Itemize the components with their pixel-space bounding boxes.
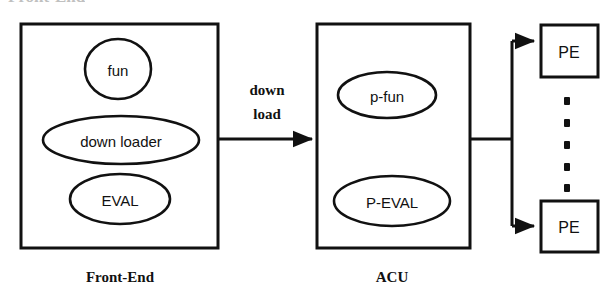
download-edge[interactable]: down load xyxy=(218,82,312,139)
block-diagram-svg: fun down loader EVAL Front-End down load xyxy=(0,0,615,307)
eval-label: EVAL xyxy=(101,192,138,209)
acu-caption: ACU xyxy=(376,269,409,285)
node-p-eval[interactable]: P-EVAL xyxy=(334,176,450,226)
node-pe-bottom[interactable]: PE xyxy=(541,201,598,252)
diagram-canvas: Front-End fun down loader EVAL xyxy=(0,0,615,307)
node-down-loader[interactable]: down loader xyxy=(43,116,199,164)
down-loader-label: down loader xyxy=(80,133,162,150)
fun-label: fun xyxy=(108,62,129,79)
download-label-line1: down xyxy=(249,82,285,98)
p-fun-label: p-fun xyxy=(370,88,404,105)
acu-block[interactable]: p-fun P-EVAL ACU xyxy=(317,24,470,285)
vertical-ellipsis-icon xyxy=(564,97,570,192)
pe-bottom-label: PE xyxy=(558,219,579,236)
node-eval[interactable]: EVAL xyxy=(70,174,170,224)
pe-top-label: PE xyxy=(558,44,579,61)
p-eval-label: P-EVAL xyxy=(366,194,418,211)
front-end-block[interactable]: fun down loader EVAL Front-End xyxy=(21,24,218,285)
front-end-caption: Front-End xyxy=(86,269,155,285)
node-pe-top[interactable]: PE xyxy=(541,25,598,77)
pe-bus[interactable] xyxy=(470,41,534,226)
node-p-fun[interactable]: p-fun xyxy=(338,72,436,118)
download-label-line2: load xyxy=(253,106,281,122)
node-fun[interactable]: fun xyxy=(85,39,151,99)
